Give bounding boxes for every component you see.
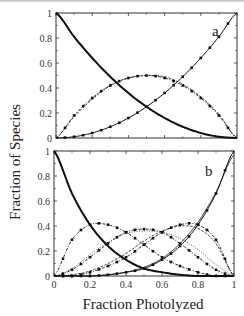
data-marker xyxy=(116,261,119,264)
data-marker xyxy=(98,268,101,271)
data-marker xyxy=(80,263,83,266)
panel-b: 00.20.40.60.8100.20.40.60.81b xyxy=(38,146,237,291)
data-marker xyxy=(134,228,137,231)
y-tick-label: 1 xyxy=(47,8,52,19)
data-marker xyxy=(170,261,173,264)
data-marker xyxy=(172,84,175,87)
data-marker xyxy=(107,265,110,268)
data-marker xyxy=(197,256,200,259)
x-tick-label: 0.4 xyxy=(120,279,133,290)
data-marker xyxy=(98,249,101,252)
data-marker xyxy=(62,258,65,261)
data-marker xyxy=(143,243,146,246)
y-tick-label: 0.6 xyxy=(38,196,51,207)
x-tick-label: 0 xyxy=(52,279,57,290)
data-marker xyxy=(71,268,74,271)
data-marker xyxy=(206,263,209,266)
data-marker xyxy=(80,229,83,232)
data-marker xyxy=(181,75,184,78)
x-tick-label: 0.2 xyxy=(84,279,97,290)
data-marker xyxy=(200,57,203,60)
data-marker xyxy=(64,136,67,139)
data-marker xyxy=(118,121,121,124)
data-marker xyxy=(89,256,92,259)
data-marker xyxy=(190,90,193,93)
data-marker xyxy=(154,99,157,102)
data-marker xyxy=(109,125,112,128)
data-marker xyxy=(224,275,227,278)
y-tick-label: 0.2 xyxy=(38,246,51,257)
data-marker xyxy=(179,265,182,268)
data-marker xyxy=(152,237,155,240)
data-marker xyxy=(224,272,227,275)
figure: 00.20.40.60.81a 00.20.40.60.8100.20.40.6… xyxy=(0,0,244,316)
data-marker xyxy=(215,268,218,271)
y-tick-label: 0.8 xyxy=(38,171,51,182)
data-marker xyxy=(215,275,218,278)
y-tick-label: 0.2 xyxy=(40,108,53,119)
data-marker xyxy=(163,92,166,95)
data-marker xyxy=(190,66,193,69)
y-tick-label: 0.6 xyxy=(40,58,53,69)
data-marker xyxy=(188,268,191,271)
data-marker xyxy=(100,129,103,132)
data-marker xyxy=(116,226,119,229)
x-axis-label: Fraction Photolyzed xyxy=(82,296,204,312)
data-marker xyxy=(188,249,191,252)
data-marker xyxy=(170,236,173,239)
y-axis-label: Fraction of Species xyxy=(7,104,23,220)
panel-a: 00.20.40.60.81a xyxy=(40,8,238,144)
data-marker xyxy=(188,222,191,225)
y-tick-label: 1 xyxy=(45,146,50,157)
y-tick-label: 0 xyxy=(47,133,52,144)
data-marker xyxy=(71,238,74,241)
x-tick-label: 0.6 xyxy=(156,279,169,290)
data-marker xyxy=(215,238,218,241)
data-marker xyxy=(73,135,76,138)
data-marker xyxy=(152,250,155,253)
data-marker xyxy=(143,228,146,231)
data-marker xyxy=(116,236,119,239)
data-marker xyxy=(227,22,230,25)
data-marker xyxy=(188,235,191,238)
data-marker xyxy=(125,256,128,259)
data-marker xyxy=(197,271,200,274)
data-marker xyxy=(209,46,212,49)
data-marker xyxy=(134,250,137,253)
data-marker xyxy=(107,223,110,226)
y-tick-label: 0.4 xyxy=(38,221,51,232)
y-tick-label: 0.4 xyxy=(40,83,53,94)
data-marker xyxy=(206,229,209,232)
panel-label: a xyxy=(212,23,219,39)
panel-label: b xyxy=(205,163,213,179)
data-marker xyxy=(82,134,85,137)
data-marker xyxy=(179,245,182,248)
data-marker xyxy=(136,111,139,114)
x-tick-label: 0.8 xyxy=(192,279,205,290)
y-tick-label: 0 xyxy=(45,271,50,282)
data-marker xyxy=(91,132,94,135)
x-tick-label: 1 xyxy=(232,279,237,290)
data-marker xyxy=(98,222,101,225)
data-marker xyxy=(134,237,137,240)
data-marker xyxy=(206,273,209,276)
y-tick-label: 0.8 xyxy=(40,33,53,44)
data-marker xyxy=(127,117,130,120)
data-marker xyxy=(89,223,92,226)
